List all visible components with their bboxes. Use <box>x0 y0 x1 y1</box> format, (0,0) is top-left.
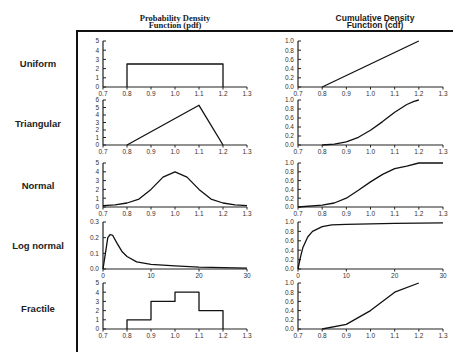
normal-cdf-curve <box>298 163 443 207</box>
fractile-cdf-x-tick-label: 1.1 <box>390 332 399 339</box>
uniform-cdf-curve <box>322 41 419 87</box>
normal-pdf-x-tick-label: 1.3 <box>242 210 251 217</box>
normal-pdf-curve <box>103 172 247 206</box>
fractile-cdf-y-tick-label: 0.4 <box>285 307 294 314</box>
triangular-cdf-x-tick-label: 0.9 <box>342 148 351 155</box>
normal-pdf-x-tick-label: 0.8 <box>122 210 131 217</box>
normal-pdf-x-tick-label: 0.7 <box>98 210 107 217</box>
log-normal-cdf-x-tick-label: 10 <box>343 272 351 279</box>
uniform-pdf-curve <box>127 64 223 87</box>
uniform-pdf-x-tick-label: 0.8 <box>122 90 131 97</box>
fractile-cdf-x-tick-label: 0.8 <box>318 332 327 339</box>
normal-pdf-x-tick-label: 1.0 <box>170 210 179 217</box>
triangular-pdf-y-tick-label: 2 <box>95 126 99 133</box>
normal-pdf-y-tick-label: 3 <box>95 177 99 184</box>
triangular-pdf-curve <box>127 105 223 145</box>
triangular-pdf-y-tick-label: 5 <box>95 104 99 111</box>
uniform-cdf-x-tick-label: 1.2 <box>414 90 423 97</box>
uniform-pdf-y-tick-label: 1 <box>95 74 99 81</box>
fractile-cdf-y-tick-label: 0.2 <box>285 316 294 323</box>
normal-cdf-y-tick-label: 0.6 <box>285 177 294 184</box>
uniform-pdf-x-tick-label: 1.0 <box>170 90 179 97</box>
triangular-cdf-x-tick-label: 0.7 <box>293 148 302 155</box>
log-normal-cdf-y-tick-label: 0.0 <box>285 265 294 272</box>
triangular-cdf-x-tick-label: 1.0 <box>366 148 375 155</box>
uniform-pdf-x-tick-label: 0.9 <box>146 90 155 97</box>
fractile-pdf-y-tick-label: 3 <box>95 298 99 305</box>
triangular-cdf-x-tick-label: 1.1 <box>390 148 399 155</box>
log-normal-pdf-y-tick-label: 0.1 <box>90 250 99 257</box>
normal-cdf-x-tick-label: 0.7 <box>293 210 302 217</box>
log-normal-pdf-y-tick-label: 0.0 <box>90 265 99 272</box>
triangular-pdf-x-tick-label: 0.9 <box>146 148 155 155</box>
normal-cdf-y-tick-label: 1.0 <box>285 159 294 166</box>
normal-cdf-x-tick-label: 1.0 <box>366 210 375 217</box>
fractile-cdf-x-tick-label: 1.3 <box>438 332 447 339</box>
fractile-cdf-curve <box>322 283 419 329</box>
triangular-pdf-y-tick-label: 3 <box>95 119 99 126</box>
triangular-pdf-x-tick-label: 0.8 <box>122 148 131 155</box>
uniform-cdf-x-tick-label: 1.3 <box>438 90 447 97</box>
uniform-pdf-y-tick-label: 4 <box>95 47 99 54</box>
log-normal-pdf-x-tick-label: 20 <box>195 272 203 279</box>
uniform-cdf-y-tick-label: 0.4 <box>285 65 294 72</box>
log-normal-pdf-y-tick-label: 0.3 <box>90 218 99 225</box>
fractile-pdf-y-tick-label: 5 <box>95 279 99 286</box>
normal-pdf-x-tick-label: 1.1 <box>194 210 203 217</box>
uniform-pdf-x-tick-label: 1.2 <box>218 90 227 97</box>
triangular-pdf-y-tick-label: 4 <box>95 111 99 118</box>
triangular-cdf-curve <box>322 100 419 145</box>
triangular-cdf-y-tick-label: 0.2 <box>285 132 294 139</box>
log-normal-cdf-y-tick-label: 0.4 <box>285 247 294 254</box>
uniform-pdf-x-tick-label: 1.1 <box>194 90 203 97</box>
normal-pdf-x-tick-label: 0.9 <box>146 210 155 217</box>
log-normal-cdf-y-tick-label: 0.8 <box>285 228 294 235</box>
log-normal-cdf-x-tick-label: 30 <box>439 272 447 279</box>
uniform-cdf-y-tick-label: 0.2 <box>285 74 294 81</box>
fractile-pdf-x-tick-label: 0.7 <box>98 332 107 339</box>
uniform-pdf-x-tick-label: 1.3 <box>242 90 251 97</box>
triangular-cdf-x-tick-label: 1.2 <box>414 148 423 155</box>
uniform-pdf-y-tick-label: 2 <box>95 65 99 72</box>
log-normal-cdf-y-tick-label: 1.0 <box>285 218 294 225</box>
uniform-cdf-x-tick-label: 1.1 <box>390 90 399 97</box>
uniform-cdf-x-tick-label: 1.0 <box>366 90 375 97</box>
triangular-pdf-y-tick-label: 1 <box>95 134 99 141</box>
normal-pdf-y-tick-label: 1 <box>95 195 99 202</box>
normal-cdf-y-tick-label: 0.8 <box>285 168 294 175</box>
normal-cdf-x-tick-label: 1.2 <box>414 210 423 217</box>
normal-pdf-y-tick-label: 2 <box>95 186 99 193</box>
fractile-pdf-x-tick-label: 1.1 <box>194 332 203 339</box>
fractile-pdf-x-tick-label: 0.9 <box>146 332 155 339</box>
normal-cdf-x-tick-label: 0.8 <box>318 210 327 217</box>
fractile-cdf-x-tick-label: 1.2 <box>414 332 423 339</box>
uniform-cdf-y-tick-label: 1.0 <box>285 37 294 44</box>
log-normal-pdf-curve <box>103 235 247 270</box>
log-normal-cdf-y-tick-label: 0.6 <box>285 237 294 244</box>
fractile-pdf-x-tick-label: 1.3 <box>242 332 251 339</box>
uniform-cdf-y-tick-label: 0.8 <box>285 47 294 54</box>
fractile-pdf-x-tick-label: 1.0 <box>170 332 179 339</box>
log-normal-cdf-x-tick-label: 20 <box>391 272 399 279</box>
normal-pdf-y-tick-label: 5 <box>95 159 99 166</box>
fractile-pdf-x-tick-label: 0.8 <box>122 332 131 339</box>
log-normal-cdf-y-tick-label: 0.2 <box>285 256 294 263</box>
uniform-cdf-x-tick-label: 0.8 <box>318 90 327 97</box>
fractile-cdf-y-tick-label: 0.6 <box>285 298 294 305</box>
uniform-pdf-y-tick-label: 3 <box>95 56 99 63</box>
normal-pdf-x-tick-label: 1.2 <box>218 210 227 217</box>
triangular-pdf-x-tick-label: 1.0 <box>170 148 179 155</box>
distribution-plots: 0123450.70.80.91.01.11.21.30.00.20.40.60… <box>0 0 461 354</box>
uniform-pdf-y-tick-label: 5 <box>95 37 99 44</box>
triangular-cdf-x-tick-label: 1.3 <box>438 148 447 155</box>
fractile-pdf-y-tick-label: 4 <box>95 289 99 296</box>
fractile-pdf-y-tick-label: 2 <box>95 307 99 314</box>
uniform-pdf-x-tick-label: 0.7 <box>98 90 107 97</box>
normal-cdf-x-tick-label: 0.9 <box>342 210 351 217</box>
triangular-pdf-x-tick-label: 1.1 <box>194 148 203 155</box>
fractile-pdf-y-tick-label: 1 <box>95 316 99 323</box>
log-normal-cdf-x-tick-label: 0 <box>296 272 300 279</box>
fractile-cdf-x-tick-label: 1.0 <box>366 332 375 339</box>
log-normal-pdf-x-tick-label: 0 <box>101 272 105 279</box>
normal-cdf-y-tick-label: 0.2 <box>285 195 294 202</box>
